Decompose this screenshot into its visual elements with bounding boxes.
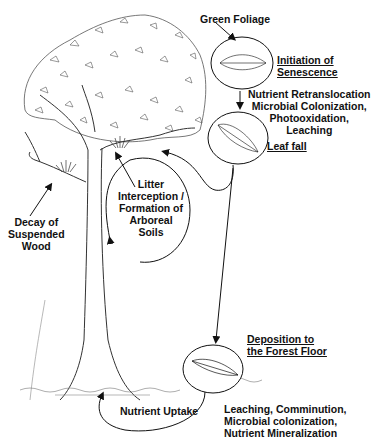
litter-line: Formation of bbox=[118, 202, 184, 214]
label-green-foliage: Green Foliage bbox=[200, 13, 270, 25]
arrow-leaf-fall-to-deposition bbox=[216, 168, 233, 340]
litter-line: Interception / bbox=[118, 190, 184, 202]
label-decay-of-suspended-wood: Decay of Suspended Wood bbox=[8, 216, 65, 252]
green-foliage-ellipse bbox=[211, 37, 273, 89]
litter-line: Litter bbox=[118, 178, 184, 190]
label-deposition: Deposition to the Forest Floor bbox=[247, 333, 327, 357]
label-initiation-line2: Senescence bbox=[277, 66, 338, 78]
arrow-decay-pointer bbox=[30, 186, 50, 216]
label-nutrient-uptake: Nutrient Uptake bbox=[120, 405, 198, 417]
canopy-process-line: Photooxidation, bbox=[248, 112, 371, 124]
label-canopy-processes: Nutrient Retranslocation Microbial Colon… bbox=[248, 88, 371, 136]
decay-line: Wood bbox=[8, 240, 65, 252]
label-initiation-line1: Initiation of bbox=[277, 54, 338, 66]
label-initiation-of-senescence: Initiation of Senescence bbox=[277, 54, 338, 78]
litter-line: Soils bbox=[118, 226, 184, 238]
label-litter-interception: Litter Interception / Formation of Arbor… bbox=[118, 178, 184, 238]
deposition-line2: the Forest Floor bbox=[247, 345, 327, 357]
canopy-process-line: Leaching bbox=[248, 124, 371, 136]
label-leaf-fall: Leaf fall bbox=[267, 140, 307, 152]
litter-line: Arboreal bbox=[118, 214, 184, 226]
floor-process-line: Nutrient Mineralization bbox=[224, 427, 347, 439]
label-floor-processes: Leaching, Comminution, Microbial coloniz… bbox=[224, 403, 347, 439]
floor-process-line: Microbial colonization, bbox=[224, 415, 347, 427]
decay-line: Decay of bbox=[8, 216, 65, 228]
deposition-ellipse bbox=[183, 345, 243, 393]
canopy-process-line: Microbial Colonization, bbox=[248, 100, 371, 112]
tree-canopy bbox=[24, 15, 206, 142]
decay-line: Suspended bbox=[8, 228, 65, 240]
deposition-line1: Deposition to bbox=[247, 333, 327, 345]
floor-process-line: Leaching, Comminution, bbox=[224, 403, 347, 415]
canopy-process-line: Nutrient Retranslocation bbox=[248, 88, 371, 100]
